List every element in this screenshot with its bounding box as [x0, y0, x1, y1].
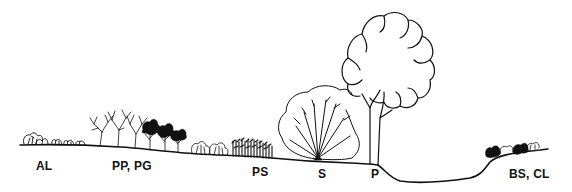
profile-drawing — [0, 0, 572, 192]
bs-cl-shrubs — [485, 143, 539, 158]
zone-label-al: AL — [36, 159, 52, 173]
p-tree — [342, 13, 435, 165]
zone-label-ps: PS — [252, 165, 268, 179]
vegetation-profile-figure: AL PP, PG PS S P BS, CL — [0, 0, 572, 192]
ground-line — [20, 145, 548, 183]
zone-label-pp-pg: PP, PG — [112, 159, 152, 173]
zone-label-bs-cl: BS, CL — [509, 167, 550, 181]
al-shrubs — [23, 133, 85, 145]
zone-label-s: S — [318, 167, 326, 181]
s-shrub — [279, 86, 360, 160]
zone-label-p: P — [371, 167, 379, 181]
